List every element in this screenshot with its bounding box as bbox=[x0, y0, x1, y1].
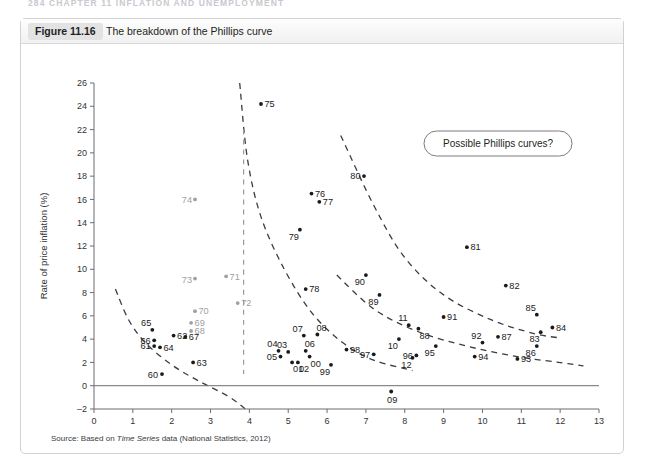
annotation-label: Possible Phillips curves? bbox=[443, 138, 553, 149]
data-point-label-08: 08 bbox=[316, 323, 326, 333]
data-point-97 bbox=[372, 352, 376, 356]
data-point-85 bbox=[535, 313, 539, 317]
x-axis-tick-label: 0 bbox=[91, 416, 96, 426]
data-point-label-60: 60 bbox=[148, 370, 158, 380]
data-point-62 bbox=[172, 334, 176, 338]
figure-number-badge: Figure 11.16 bbox=[28, 23, 103, 40]
data-point-93 bbox=[516, 357, 520, 361]
annotation-group: Possible Phillips curves? bbox=[424, 131, 572, 156]
data-point-label-12: 12 bbox=[401, 360, 411, 370]
x-axis-tick-label: 3 bbox=[208, 416, 213, 426]
source-suffix: data (National Statistics, 2012) bbox=[159, 434, 270, 443]
data-point-03 bbox=[286, 350, 290, 354]
data-point-61 bbox=[152, 344, 156, 348]
data-point-82 bbox=[504, 284, 508, 288]
data-point-label-05: 05 bbox=[267, 352, 277, 362]
data-point-09 bbox=[389, 390, 393, 394]
y-axis-tick-label: 14 bbox=[77, 218, 87, 228]
data-point-label-79: 79 bbox=[289, 232, 299, 242]
source-italic-title: Time Series bbox=[117, 434, 160, 443]
data-point-label-78: 78 bbox=[309, 284, 319, 294]
source-prefix: Source: Based on bbox=[51, 434, 117, 443]
data-point-label-85: 85 bbox=[526, 303, 536, 313]
data-point-label-93: 93 bbox=[521, 354, 531, 364]
data-point-64 bbox=[158, 345, 162, 349]
data-point-label-06: 06 bbox=[305, 339, 315, 349]
data-point-87 bbox=[496, 335, 500, 339]
data-point-04 bbox=[277, 349, 281, 353]
data-point-07 bbox=[302, 334, 306, 338]
data-point-81 bbox=[465, 245, 469, 249]
x-axis-tick-label: 1 bbox=[130, 416, 135, 426]
data-point-label-02: 02 bbox=[299, 364, 309, 374]
data-point-label-63: 63 bbox=[197, 358, 207, 368]
data-point-66 bbox=[152, 338, 156, 342]
data-point-label-07: 07 bbox=[293, 324, 303, 334]
data-point-70 bbox=[193, 309, 197, 313]
y-axis-tick-label: –2 bbox=[77, 404, 87, 414]
data-point-label-91: 91 bbox=[447, 312, 457, 322]
y-axis-tick-label: 12 bbox=[77, 241, 87, 251]
phillips-curve-1960s bbox=[115, 289, 245, 409]
data-point-label-90: 90 bbox=[355, 277, 365, 287]
data-point-label-70: 70 bbox=[199, 306, 209, 316]
y-axis-tick-label: 8 bbox=[82, 288, 87, 298]
data-point-08 bbox=[316, 333, 320, 337]
figure-container: Figure 11.16 The breakdown of the Philli… bbox=[20, 18, 624, 454]
data-point-label-97: 97 bbox=[360, 350, 370, 360]
data-point-77 bbox=[317, 200, 321, 204]
chart-plot-area: –202468101214161820222426012345678910111… bbox=[21, 44, 623, 430]
data-point-label-04: 04 bbox=[267, 339, 277, 349]
data-point-91 bbox=[442, 315, 446, 319]
data-point-71 bbox=[224, 274, 228, 278]
x-axis-tick-label: 13 bbox=[594, 416, 604, 426]
source-note: Source: Based on Time Series data (Natio… bbox=[51, 434, 271, 443]
y-axis-tick-label: 0 bbox=[82, 381, 87, 391]
data-point-80 bbox=[362, 174, 366, 178]
data-point-84 bbox=[551, 326, 555, 330]
x-axis-tick-label: 5 bbox=[286, 416, 291, 426]
data-point-63 bbox=[191, 361, 195, 365]
page-running-header: 284 CHAPTER 11 INFLATION AND UNEMPLOYMEN… bbox=[28, 0, 428, 10]
x-axis-tick-label: 11 bbox=[517, 416, 526, 426]
data-point-label-73: 73 bbox=[182, 275, 192, 285]
data-point-label-71: 71 bbox=[230, 272, 240, 282]
data-point-label-64: 64 bbox=[164, 343, 174, 353]
data-point-label-65: 65 bbox=[141, 318, 151, 328]
data-point-label-66: 66 bbox=[140, 336, 150, 346]
x-axis-tick-label: 12 bbox=[555, 416, 565, 426]
data-point-60 bbox=[160, 372, 164, 376]
data-point-label-82: 82 bbox=[509, 281, 519, 291]
data-point-label-09: 09 bbox=[387, 395, 397, 405]
data-point-78 bbox=[304, 287, 308, 291]
y-axis-tick-label: 10 bbox=[77, 264, 87, 274]
data-point-11 bbox=[407, 323, 411, 327]
data-point-label-92: 92 bbox=[471, 331, 481, 341]
data-point-label-94: 94 bbox=[478, 352, 488, 362]
data-point-label-89: 89 bbox=[368, 297, 378, 307]
x-axis-tick-label: 8 bbox=[402, 416, 407, 426]
data-point-06 bbox=[304, 349, 308, 353]
data-point-67 bbox=[183, 335, 187, 339]
y-axis-tick-label: 6 bbox=[82, 311, 87, 321]
y-axis-tick-label: 18 bbox=[77, 171, 87, 181]
x-axis-tick-label: 9 bbox=[441, 416, 446, 426]
data-point-98 bbox=[345, 348, 349, 352]
data-point-65 bbox=[150, 328, 154, 332]
y-axis-tick-label: 2 bbox=[82, 358, 87, 368]
data-point-76 bbox=[310, 192, 314, 196]
y-axis-tick-label: 26 bbox=[77, 78, 87, 88]
data-point-label-98: 98 bbox=[350, 345, 360, 355]
data-point-05 bbox=[279, 355, 283, 359]
y-axis-tick-label: 16 bbox=[77, 195, 87, 205]
data-point-label-99: 99 bbox=[320, 367, 330, 377]
phillips-curve-1990s bbox=[337, 275, 584, 366]
data-point-94 bbox=[473, 355, 477, 359]
x-axis-tick-label: 6 bbox=[325, 416, 330, 426]
y-axis-tick-label: 24 bbox=[77, 101, 87, 111]
data-point-69 bbox=[189, 321, 193, 325]
data-point-label-84: 84 bbox=[556, 323, 566, 333]
data-point-72 bbox=[236, 301, 240, 305]
data-point-label-80: 80 bbox=[350, 171, 360, 181]
data-point-74 bbox=[193, 198, 197, 202]
